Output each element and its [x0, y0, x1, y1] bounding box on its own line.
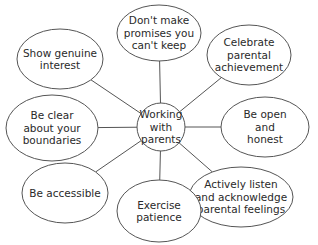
- node-open-honest: Be openandhonest: [221, 97, 309, 157]
- center-label-line: parents: [141, 133, 181, 145]
- node-label-line: Be clear: [31, 109, 75, 121]
- node-label-line: interest: [40, 59, 80, 71]
- node-label-line: boundaries: [23, 134, 82, 146]
- node-label-line: Actively listen: [204, 178, 278, 190]
- mind-map-diagram: Don't makepromises youcan't keepCelebrat…: [0, 0, 318, 245]
- node-label-line: parental: [227, 49, 271, 61]
- node-label-line: Be open: [243, 108, 286, 120]
- connector-line: [179, 143, 212, 172]
- connector-line: [180, 78, 222, 112]
- node-label-line: honest: [247, 133, 283, 145]
- node-label-line: Exercise: [137, 199, 181, 211]
- connector-line: [160, 151, 161, 180]
- node-dont-make-promises: Don't makepromises youcan't keep: [117, 5, 201, 61]
- node-label-line: Show genuine: [23, 47, 97, 59]
- node-label-line: Don't make: [129, 14, 189, 26]
- node-be-accessible: Be accessible: [22, 163, 108, 223]
- node-label-line: patience: [136, 211, 181, 223]
- node-exercise-patience: Exercisepatience: [117, 180, 201, 242]
- node-label-line: Be accessible: [29, 187, 100, 199]
- connector-line: [160, 61, 161, 103]
- node-label-line: can't keep: [132, 39, 187, 51]
- center-label-line: with: [150, 121, 172, 133]
- node-label-line: and acknowledge: [195, 191, 287, 203]
- center-label-line: Working: [140, 108, 183, 120]
- node-celebrate-achievement: Celebrateparentalachievement: [207, 25, 291, 85]
- node-actively-listen: Actively listenand acknowledgeparental f…: [189, 167, 293, 227]
- node-label-line: about your: [23, 122, 81, 134]
- node-clear-boundaries: Be clearabout yourboundaries: [6, 95, 98, 161]
- node-label-line: and: [255, 121, 275, 133]
- node-label-line: promises you: [124, 27, 194, 39]
- node-label-line: Celebrate: [223, 36, 274, 48]
- connector-line: [91, 80, 141, 114]
- node-label-line: achievement: [215, 61, 283, 73]
- center-node: Workingwithparents: [137, 103, 185, 151]
- node-genuine-interest: Show genuineinterest: [17, 29, 103, 89]
- node-label-line: parental feelings: [197, 203, 285, 215]
- connector-line: [96, 141, 142, 172]
